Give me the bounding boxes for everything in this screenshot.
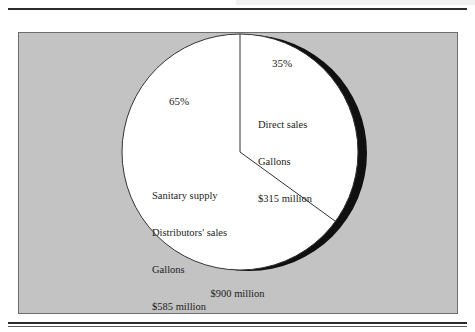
- slice-percent-distributor-sales: 65%: [169, 95, 189, 108]
- slice-label-distributor-sales-name-1: Sanitary supply: [152, 190, 227, 202]
- slice-label-distributor-sales-measure: Gallons: [152, 264, 227, 276]
- pie-chart-svg: [0, 0, 475, 332]
- slice-label-direct-sales: Direct sales Gallons $315 million: [258, 94, 312, 230]
- slice-label-direct-sales-measure: Gallons: [258, 156, 312, 168]
- slice-label-distributor-sales: Sanitary supply Distributors' sales Gall…: [152, 165, 227, 332]
- pie-chart: [0, 0, 475, 332]
- bottom-rule-secondary: [8, 326, 467, 327]
- pie-total-caption: $900 million: [0, 288, 475, 300]
- slice-label-direct-sales-value: $315 million: [258, 193, 312, 205]
- figure-root: 35% 65% Direct sales Gallons $315 millio…: [0, 0, 475, 332]
- slice-label-distributor-sales-name-2: Distributors' sales: [152, 227, 227, 239]
- slice-label-direct-sales-name: Direct sales: [258, 119, 312, 131]
- slice-percent-direct-sales: 35%: [272, 57, 292, 70]
- slice-label-distributor-sales-value: $585 million: [152, 301, 227, 313]
- bottom-rule-primary: [8, 322, 467, 324]
